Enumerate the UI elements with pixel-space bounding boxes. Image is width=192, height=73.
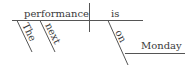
prepositional-object-word: Monday bbox=[141, 40, 182, 51]
preposition-word: on bbox=[113, 28, 129, 45]
preposition-line bbox=[108, 21, 128, 66]
sentence-diagram: performance is The next on Monday bbox=[0, 0, 192, 73]
verb-word: is bbox=[111, 8, 119, 19]
subject-word: performance bbox=[24, 8, 89, 19]
